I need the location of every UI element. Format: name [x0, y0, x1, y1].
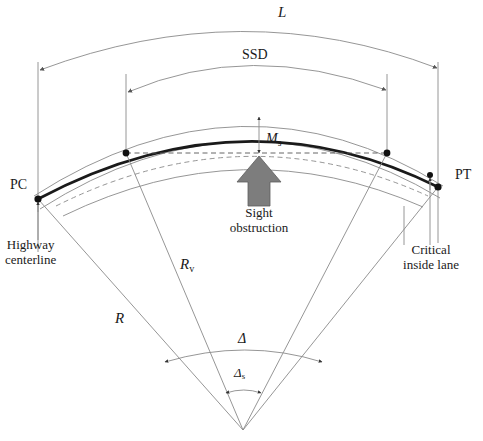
label-sight-obstruction: Sight obstruction	[223, 206, 295, 235]
radius-inside-lane-symbol: R	[180, 256, 189, 272]
pc-point	[34, 195, 41, 202]
middle-ordinate-subscript: s	[278, 138, 282, 148]
middle-ordinate-symbol: M	[266, 131, 278, 146]
critical-inside-lane-line-2: inside lane	[383, 258, 479, 273]
sight-obstruction-arrow	[237, 156, 281, 206]
label-pc: PC	[10, 177, 27, 193]
radius-inside-lane-subscript: v	[189, 263, 194, 274]
outer-lane-arc	[40, 142, 440, 209]
sight-angle-symbol: Δ	[234, 365, 242, 380]
pt-point	[434, 183, 441, 190]
node-points	[34, 150, 441, 203]
label-sight-angle: Δs	[234, 366, 245, 382]
sight-distance-diagram: L SSD Ms PC PT Highway centerline Sight …	[0, 0, 483, 441]
sight-obstruction-line-1: Sight	[223, 206, 295, 221]
sight-angle-subscript: s	[242, 371, 245, 381]
label-ssd: SSD	[242, 47, 268, 63]
sight-obstruction-line-2: obstruction	[223, 221, 295, 236]
label-curve-length: L	[278, 4, 286, 21]
label-highway-centerline: Highway centerline	[5, 238, 56, 267]
critical-lane-point	[427, 172, 433, 178]
label-radius-inside-lane: Rv	[180, 256, 194, 274]
label-central-angle: Δ	[238, 331, 246, 347]
curve-length-dimension	[40, 31, 437, 70]
critical-inside-lane-line-1: Critical	[383, 243, 479, 258]
label-critical-inside-lane: Critical inside lane	[383, 243, 479, 272]
radial-lines	[38, 153, 438, 430]
ssd-dimension	[128, 65, 386, 92]
chord-right-point	[384, 150, 391, 157]
outer-edge-arc	[34, 126, 443, 196]
highway-centerline-line-2: centerline	[5, 253, 56, 268]
chord-left-point	[123, 150, 130, 157]
label-radius-centerline: R	[115, 310, 124, 327]
highway-centerline-line-1: Highway	[5, 238, 56, 253]
label-middle-ordinate: Ms	[266, 131, 281, 148]
sight-angle-delta-s	[226, 390, 261, 393]
label-pt: PT	[455, 167, 471, 183]
